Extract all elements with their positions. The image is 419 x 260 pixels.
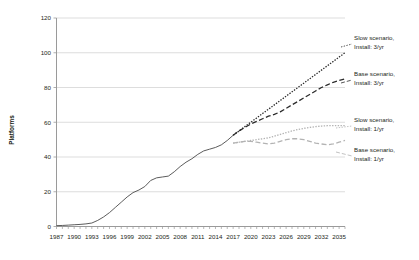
svg-text:1987: 1987 <box>50 233 64 240</box>
legend-label-0-line2: Install: 3/yr <box>354 43 384 50</box>
svg-text:1996: 1996 <box>103 233 117 240</box>
line-chart: 020406080100120 198719901993199619992002… <box>0 0 419 260</box>
svg-text:2017: 2017 <box>226 233 240 240</box>
legend-label-1-line1: Base scenario, <box>354 70 395 77</box>
svg-text:60: 60 <box>44 119 51 126</box>
legend-label-3-line2: Install: 1/yr <box>354 155 384 162</box>
chart-container: 020406080100120 198719901993199619992002… <box>0 0 419 260</box>
legend-label-1-line2: Install: 3/yr <box>354 79 384 86</box>
svg-text:2029: 2029 <box>297 233 311 240</box>
legend-label-2-line2: Install: 1/yr <box>354 125 384 132</box>
svg-text:100: 100 <box>41 49 52 56</box>
svg-text:120: 120 <box>41 14 52 21</box>
svg-text:20: 20 <box>44 188 51 195</box>
svg-text:2005: 2005 <box>156 233 170 240</box>
legend-label-0-line1: Slow scenario, <box>354 34 395 41</box>
svg-text:2026: 2026 <box>279 233 293 240</box>
svg-text:1990: 1990 <box>67 233 81 240</box>
svg-text:1993: 1993 <box>85 233 99 240</box>
svg-text:1999: 1999 <box>120 233 134 240</box>
svg-text:2014: 2014 <box>209 233 223 240</box>
svg-text:2032: 2032 <box>315 233 329 240</box>
svg-text:2002: 2002 <box>138 233 152 240</box>
svg-text:2035: 2035 <box>332 233 346 240</box>
y-axis-title: Platforms <box>8 115 15 145</box>
legend-label-2-line1: Slow scenario, <box>354 116 395 123</box>
svg-text:2023: 2023 <box>262 233 276 240</box>
y-axis-title-text: Platforms <box>8 115 15 145</box>
legend-label-3-line1: Base scenario, <box>354 146 395 153</box>
svg-text:80: 80 <box>44 84 51 91</box>
x-axis-tick-labels: 1987199019931996199920022005200820112014… <box>50 233 347 240</box>
svg-text:2011: 2011 <box>191 233 205 240</box>
svg-text:2008: 2008 <box>173 233 187 240</box>
svg-text:0: 0 <box>48 223 52 230</box>
svg-text:2020: 2020 <box>244 233 258 240</box>
svg-text:40: 40 <box>44 153 51 160</box>
